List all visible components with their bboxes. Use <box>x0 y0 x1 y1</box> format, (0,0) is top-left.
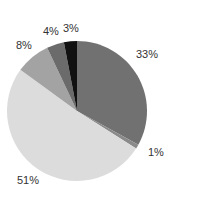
slice-label-8: 8% <box>16 39 32 51</box>
slice-label-4: 4% <box>43 25 59 37</box>
slice-label-3: 3% <box>63 22 79 34</box>
slice-label-1: 1% <box>148 146 164 158</box>
slice-label-33: 33% <box>136 48 158 60</box>
slice-label-51: 51% <box>17 174 39 186</box>
